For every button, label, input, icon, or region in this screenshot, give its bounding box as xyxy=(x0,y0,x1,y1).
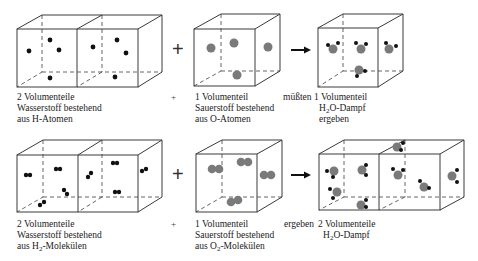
verb-ergeben: ergeben xyxy=(284,219,314,230)
water-molecule xyxy=(357,198,369,210)
arrow-icon xyxy=(291,47,311,54)
water-molecule xyxy=(328,187,342,200)
water-molecule xyxy=(354,41,368,54)
verb-muessten: müßten xyxy=(283,92,312,103)
cube-h-atoms xyxy=(17,15,162,87)
label-water-vapor-1: 1 Volumenteil H2O-Dampf ergeben xyxy=(314,92,367,125)
water-molecule xyxy=(358,163,369,177)
label-oxygen-atoms: 1 Volumenteil Sauerstoff bestehend aus O… xyxy=(195,92,274,125)
water-molecule xyxy=(393,141,406,152)
water-molecule xyxy=(384,41,398,54)
label-oxygen-molecules: 1 Volumenteil Sauerstoff bestehend aus O… xyxy=(195,219,274,252)
water-molecule xyxy=(391,167,405,180)
cube-o2-molecules xyxy=(196,140,282,212)
cube-h2o-single xyxy=(318,14,403,87)
water-molecule xyxy=(326,41,340,54)
plus-small: + xyxy=(171,92,176,102)
label-water-vapor-2: 2 Volumenteile H2O-Dampf xyxy=(318,219,375,241)
cube-o-atoms xyxy=(194,14,280,86)
arrow-icon xyxy=(291,172,311,179)
plus-small: + xyxy=(171,219,176,229)
water-molecule xyxy=(325,167,339,180)
plus-operator: + xyxy=(172,38,184,60)
plus-operator: + xyxy=(172,163,184,185)
water-molecule xyxy=(448,168,460,184)
water-molecule xyxy=(355,66,368,79)
water-molecule xyxy=(418,179,431,192)
cube-h2-molecules xyxy=(17,140,162,212)
cube-h2o-double xyxy=(319,140,464,210)
label-hydrogen-molecules: 2 Volumenteile Wasserstoff bestehend aus… xyxy=(17,219,102,252)
label-hydrogen-atoms: 2 Volumenteile Wasserstoff bestehend aus… xyxy=(17,92,102,125)
